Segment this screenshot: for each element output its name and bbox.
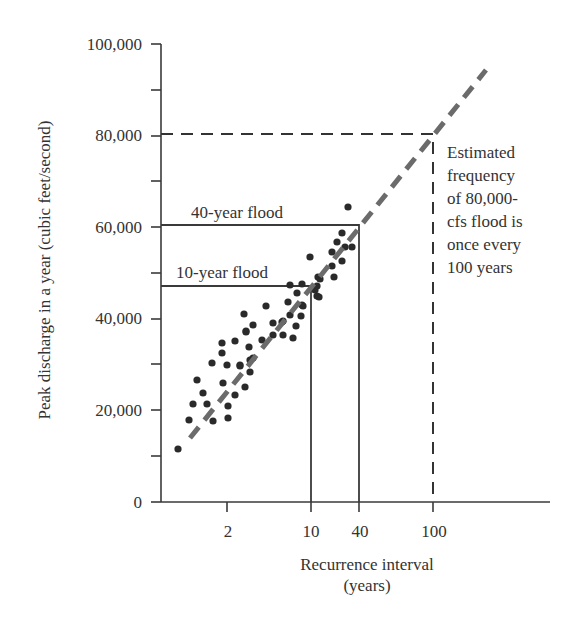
y-axis-label: Peak discharge in a year (cubic feet/sec… [35, 121, 54, 420]
x-axis-label-line2: (years) [343, 576, 390, 595]
data-point [246, 368, 253, 375]
data-point [298, 280, 305, 287]
data-point [269, 319, 276, 326]
x-axis-label-line1: Recurrence interval [300, 555, 434, 574]
x-tick-labels: 2 10 40 100 [224, 522, 447, 541]
data-point [297, 312, 304, 319]
data-point [199, 389, 206, 396]
scatter-points [174, 203, 355, 452]
data-point [231, 391, 238, 398]
data-point [338, 257, 345, 264]
reference-lines [161, 134, 433, 502]
data-point [185, 416, 192, 423]
x-tick-100: 100 [421, 522, 447, 541]
y-tick-40000: 40,000 [95, 309, 142, 328]
data-point [348, 243, 355, 250]
data-point [330, 273, 337, 280]
forty-year-flood-label: 40-year flood [191, 203, 284, 222]
data-point [245, 343, 252, 350]
data-point [249, 321, 256, 328]
data-point [203, 400, 210, 407]
y-tick-20000: 20,000 [95, 401, 142, 420]
data-point [208, 359, 215, 366]
data-point [209, 417, 216, 424]
data-point [242, 328, 249, 335]
data-point [292, 322, 299, 329]
data-point [293, 289, 300, 296]
data-point [236, 362, 243, 369]
y-tick-0: 0 [134, 493, 143, 512]
trend-line [190, 70, 486, 438]
data-point [218, 339, 225, 346]
data-point [189, 400, 196, 407]
data-point [279, 331, 286, 338]
data-point [223, 361, 230, 368]
data-point [240, 310, 247, 317]
data-point [224, 414, 231, 421]
data-point [338, 229, 345, 236]
y-tick-80000: 80,000 [95, 126, 142, 145]
note-line-3: of 80,000- [447, 189, 518, 208]
data-point [344, 203, 351, 210]
data-point [231, 337, 238, 344]
data-point [333, 238, 340, 245]
data-point [306, 253, 313, 260]
flood-frequency-chart: Peak discharge in a year (cubic feet/sec… [0, 0, 584, 624]
x-tick-2: 2 [224, 522, 233, 541]
data-point [289, 334, 296, 341]
data-point [284, 298, 291, 305]
data-point [174, 445, 181, 452]
hundred-year-estimate-line [161, 134, 433, 502]
note-line-4: cfs flood is [447, 212, 523, 231]
data-point [262, 302, 269, 309]
data-point [219, 379, 226, 386]
data-point [286, 281, 293, 288]
note-line-5: once every [447, 235, 522, 254]
data-point [224, 402, 231, 409]
data-point [193, 376, 200, 383]
y-tick-100000: 100,000 [87, 35, 142, 54]
x-tick-40: 40 [352, 522, 369, 541]
note-line-2: frequency [447, 166, 515, 185]
ten-year-flood-label: 10-year flood [176, 263, 269, 282]
y-tick-labels: 0 20,000 40,000 60,000 80,000 100,000 [87, 35, 142, 512]
data-point [315, 293, 322, 300]
x-tick-10: 10 [303, 522, 320, 541]
y-tick-60000: 60,000 [95, 218, 142, 237]
data-point [241, 383, 248, 390]
estimate-note: Estimated frequency of 80,000- cfs flood… [447, 143, 523, 277]
note-line-1: Estimated [447, 143, 515, 162]
data-point [218, 349, 225, 356]
note-line-6: 100 years [447, 258, 513, 277]
